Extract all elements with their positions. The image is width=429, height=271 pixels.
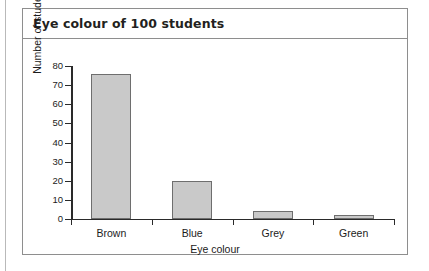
bar-grey xyxy=(253,211,293,219)
y-tick-label-wrap: 30 xyxy=(23,157,63,167)
y-tick-label: 10 xyxy=(29,195,63,204)
page-title: Eye colour of 100 students xyxy=(23,16,224,31)
page-edge-rule xyxy=(5,0,6,271)
y-tick xyxy=(65,104,71,105)
bar-brown xyxy=(91,74,131,219)
y-tick xyxy=(65,162,71,163)
y-tick xyxy=(65,66,71,67)
y-axis-line xyxy=(71,66,73,219)
y-tick-label-wrap: 10 xyxy=(23,195,63,205)
x-category-label: Blue xyxy=(152,227,233,239)
chart-card: Eye colour of 100 students Number of stu… xyxy=(22,8,408,255)
x-tick xyxy=(233,219,234,225)
y-tick-label: 40 xyxy=(29,138,63,147)
y-tick-label-wrap: 0 xyxy=(23,214,63,224)
plot-area: Number of students 01020304050607080 Bro… xyxy=(23,40,407,255)
y-tick-label: 20 xyxy=(29,176,63,185)
y-tick xyxy=(65,123,71,124)
x-category-label: Green xyxy=(313,227,394,239)
axes: 01020304050607080 BrownBlueGreyGreen xyxy=(23,40,407,255)
bar-green xyxy=(334,215,374,219)
y-tick xyxy=(65,85,71,86)
y-tick-label: 80 xyxy=(29,61,63,70)
x-tick xyxy=(152,219,153,225)
y-tick-label: 0 xyxy=(29,214,63,223)
y-tick-label-wrap: 40 xyxy=(23,138,63,148)
x-tick xyxy=(71,219,72,225)
x-tick xyxy=(394,219,395,225)
y-tick-label-wrap: 20 xyxy=(23,176,63,186)
x-category-label: Brown xyxy=(71,227,152,239)
x-axis-label: Eye colour xyxy=(23,243,407,255)
x-category-label: Grey xyxy=(233,227,314,239)
y-tick-label-wrap: 80 xyxy=(23,61,63,71)
y-tick-label-wrap: 50 xyxy=(23,118,63,128)
y-tick-label: 30 xyxy=(29,157,63,166)
y-tick-label: 70 xyxy=(29,80,63,89)
y-tick-label-wrap: 70 xyxy=(23,80,63,90)
y-tick-label-wrap: 60 xyxy=(23,99,63,109)
y-tick xyxy=(65,181,71,182)
chart-title-bar: Eye colour of 100 students xyxy=(23,9,407,39)
y-tick xyxy=(65,200,71,201)
y-tick-label: 50 xyxy=(29,118,63,127)
y-tick-label: 60 xyxy=(29,99,63,108)
chart-page: Eye colour of 100 students Number of stu… xyxy=(0,0,429,271)
y-tick xyxy=(65,143,71,144)
bar-blue xyxy=(172,181,212,219)
x-tick xyxy=(313,219,314,225)
